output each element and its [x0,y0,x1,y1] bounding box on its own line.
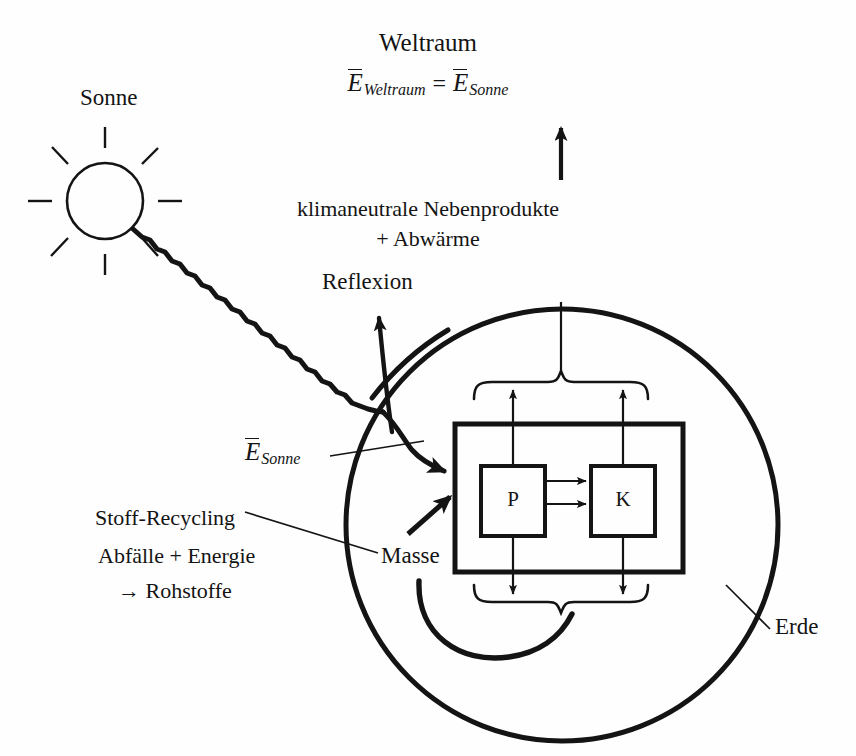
byproducts-line-1: klimaneutrale Nebenprodukte [0,196,856,222]
earth-label: Erde [775,613,818,640]
reflection-label: Reflexion [322,268,413,295]
mass-input-arrow [408,497,450,534]
sun-label: Sonne [80,84,138,111]
recycling-line-2: → Rohstoffe [118,578,232,604]
byproducts-line-2: + Abwärme [0,226,856,252]
formula-operator: = [432,70,446,96]
e-sonne-subscript-top: Sonne [469,81,508,98]
box-p-label: P [481,487,545,512]
leader-stoff-recycling [245,512,378,553]
recycling-line-1: Abfälle + Energie [98,543,255,569]
solar-energy-label: ESonne [245,437,300,469]
recycling-title: Stoff-Recycling [95,505,235,531]
recycling-arc [419,581,572,658]
e-weltraum-symbol: E [348,68,363,98]
solar-ray-wavy [133,229,383,412]
e-sonne-symbol: E [245,437,260,467]
e-sonne-subscript: Sonne [261,450,300,467]
diagram-root: Weltraum EWeltraum=ESonne klimaneutrale … [0,0,856,756]
box-k-label: K [591,487,655,512]
space-title: Weltraum [0,28,856,58]
mass-label: Masse [381,542,440,569]
e-weltraum-subscript: Weltraum [364,81,426,98]
diagram-canvas [0,0,856,756]
e-sonne-symbol-top: E [453,68,468,98]
